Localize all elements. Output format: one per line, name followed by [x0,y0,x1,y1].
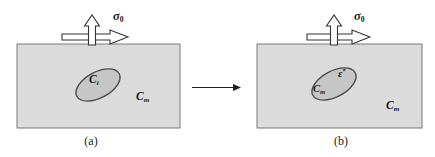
eigenstrain-superscript-b: * [342,67,345,74]
matrix-stiffness-label-b: Cm [386,100,399,112]
inclusion-stiffness-label-a: Ci [89,74,99,86]
matrix-subscript-b: m [394,105,400,113]
transform-arrow-head-icon [233,84,241,91]
equivalent-inclusion-stiffness-label-b: Cm [313,84,325,95]
sigma-symbol-b: σ [354,9,361,23]
inclusion-subscript-a: i [97,79,99,87]
matrix-subscript-a: m [144,96,150,104]
matrix-stiffness-label-a: Cm [136,91,149,103]
equivalent-inclusion-figure: σ0 Ci Cm (a) σ0 Cm ε* Cm (b) [0,0,435,157]
inclusion-symbol-a: C [89,73,97,85]
diagram-shapes [0,0,435,157]
caption-panel-b: (b) [334,135,348,147]
eigenstrain-label-b: ε* [338,69,346,80]
matrix-symbol-b: C [386,99,394,111]
sigma-subscript-a: 0 [120,15,124,24]
equiv-inclusion-subscript-b: m [320,88,325,95]
sigma-subscript-b: 0 [361,15,365,24]
matrix-symbol-a: C [136,90,144,102]
stress-label-a: σ0 [113,10,124,23]
stress-label-b: σ0 [354,10,365,23]
caption-panel-a: (a) [84,135,97,147]
horizontal-stress-arrow-b [307,30,370,44]
sigma-symbol-a: σ [113,9,120,23]
equiv-inclusion-symbol-b: C [313,83,320,94]
